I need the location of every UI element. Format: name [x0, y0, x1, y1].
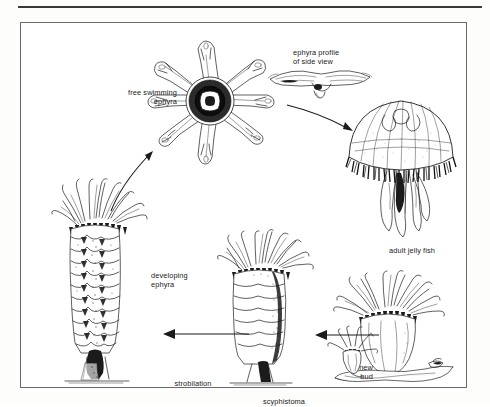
- top-horizontal-rule: [18, 6, 482, 8]
- arrow-strobila-to-ephyra: [101, 123, 171, 213]
- label-developing-ephyra: developing ephyra: [151, 272, 223, 289]
- label-strobilation: strobilation: [157, 380, 229, 389]
- label-adult-jelly-fish: adult jelly fish: [371, 247, 453, 256]
- label-free-swimming-ephyra: free swimming ephyra: [105, 89, 177, 106]
- label-ephyra-profile: ephyra profile of side view: [293, 49, 383, 66]
- scyphistoma-polyp-illustration: [216, 228, 326, 386]
- label-new-bud: new bud: [333, 364, 373, 381]
- arrow-scyphistoma-to-strobilation: [161, 326, 251, 344]
- arrow-ephyra-to-adult: [279, 85, 369, 140]
- label-scyphistoma: scyphistoma: [249, 398, 319, 407]
- arrow-newbud-to-scyphistoma: [311, 328, 381, 346]
- diagram-frame: free swimming ephyra ephyra profile of s…: [20, 22, 467, 388]
